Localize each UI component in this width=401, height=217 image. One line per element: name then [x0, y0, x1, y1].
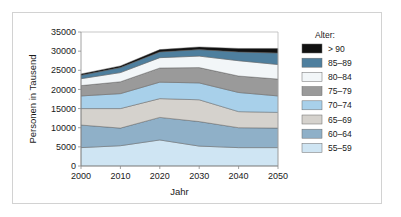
- legend-swatch: [302, 58, 322, 67]
- area-band-group: [81, 47, 278, 166]
- figure-panel: 05000100001500020000250003000035000 2000…: [12, 12, 382, 204]
- y-axis-title: Personen in Tausend: [27, 54, 38, 143]
- chart-legend: Alter: > 9085–8980–8475–7970–7465–6960–6…: [302, 30, 352, 153]
- legend-swatch: [302, 115, 322, 124]
- x-tick-label: 2010: [110, 171, 130, 181]
- legend-label: 80–84: [328, 72, 352, 82]
- legend-swatch: [302, 143, 322, 152]
- x-tick-label: 2050: [268, 171, 288, 181]
- legend-label: > 90: [328, 44, 345, 54]
- y-tick-label: 10000: [51, 123, 76, 133]
- legend-item: 75–79: [302, 86, 352, 96]
- x-tick-label: 2030: [189, 171, 209, 181]
- x-axis: 200020102020203020402050: [71, 166, 288, 181]
- x-tick-label: 2020: [150, 171, 170, 181]
- legend-swatch: [302, 72, 322, 81]
- legend-label: 55–59: [328, 143, 352, 153]
- legend-swatch: [302, 44, 322, 53]
- legend-label: 75–79: [328, 86, 352, 96]
- y-tick-label: 15000: [51, 104, 76, 114]
- legend-swatch: [302, 87, 322, 96]
- legend-label: 60–64: [328, 129, 352, 139]
- y-tick-label: 0: [71, 161, 76, 171]
- y-axis: 05000100001500020000250003000035000: [51, 27, 81, 171]
- legend-label: 85–89: [328, 58, 352, 68]
- legend-item: 60–64: [302, 129, 352, 139]
- legend-title: Alter:: [315, 30, 335, 40]
- x-tick-label: 2040: [229, 171, 249, 181]
- legend-item: 70–74: [302, 100, 352, 110]
- y-tick-label: 35000: [51, 27, 76, 37]
- legend-swatch: [302, 101, 322, 110]
- legend-item: 80–84: [302, 72, 352, 82]
- legend-item: 65–69: [302, 115, 352, 125]
- legend-item: 85–89: [302, 58, 352, 68]
- legend-items: > 9085–8980–8475–7970–7465–6960–6455–59: [302, 44, 352, 153]
- x-axis-title: Jahr: [170, 186, 188, 197]
- y-tick-label: 20000: [51, 85, 76, 95]
- legend-label: 70–74: [328, 100, 352, 110]
- legend-swatch: [302, 129, 322, 138]
- y-tick-label: 30000: [51, 46, 76, 56]
- legend-item: 55–59: [302, 143, 352, 153]
- y-tick-label: 5000: [56, 142, 76, 152]
- legend-label: 65–69: [328, 115, 352, 125]
- legend-item: > 90: [302, 44, 345, 54]
- y-tick-label: 25000: [51, 65, 76, 75]
- stacked-area-chart: 05000100001500020000250003000035000 2000…: [13, 13, 381, 203]
- x-tick-label: 2000: [71, 171, 91, 181]
